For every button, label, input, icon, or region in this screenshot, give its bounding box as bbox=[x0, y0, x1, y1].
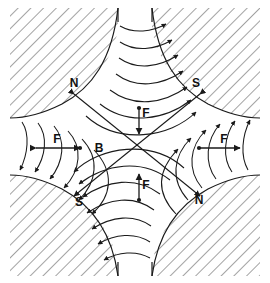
pole-label-n-top-left: N bbox=[70, 76, 79, 90]
pole-label-n-bottom-right: N bbox=[195, 193, 204, 207]
force-label-left: F bbox=[53, 132, 60, 146]
pole-label-s-top-right: S bbox=[192, 76, 200, 90]
field-label-b: B bbox=[95, 141, 104, 155]
force-label-top: F bbox=[142, 106, 149, 120]
pole-label-s-bottom-left: S bbox=[75, 195, 83, 209]
quadrupole-field-figure: N S S N B F F F F bbox=[0, 0, 270, 283]
force-label-right: F bbox=[220, 132, 227, 146]
force-arrow-top-dot bbox=[137, 106, 141, 110]
force-arrow-left-dot bbox=[78, 146, 82, 150]
force-arrow-right-dot bbox=[197, 146, 201, 150]
figure-canvas: N S S N B F F F F bbox=[0, 0, 270, 283]
force-arrow-bottom-dot bbox=[137, 198, 141, 202]
force-label-bottom: F bbox=[142, 178, 149, 192]
